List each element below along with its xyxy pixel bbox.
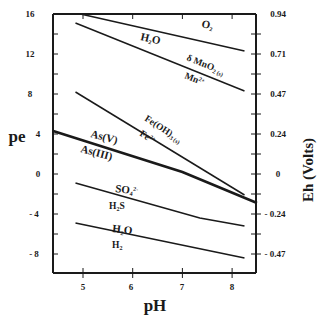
y-tick-label: 4: [36, 129, 41, 139]
x-axis-title: pH: [144, 296, 167, 315]
label-feoh3: Fe(OH)3 (s): [142, 113, 184, 146]
series-line: [81, 14, 245, 51]
y-tick-label: - 4: [29, 209, 39, 219]
eh-tick-label: 0.24: [270, 129, 286, 139]
eh-tick-label: - 0.24: [265, 209, 286, 219]
label-as-iii: As(III): [79, 142, 114, 163]
x-tick-label: 5: [81, 282, 86, 292]
series-line: [76, 183, 245, 226]
label-mn2: Mn2+: [183, 71, 206, 88]
label-h2s: H2S: [109, 201, 125, 212]
eh-tick-label: 0: [276, 169, 281, 179]
label-h2o-lower: H2O: [112, 222, 134, 237]
line-labels: O2 H2O δ MnO2 (s) Mn2+ Fe(OH)3 (s) Fe2+ …: [79, 17, 226, 251]
label-o2: O2: [200, 17, 214, 32]
x-tick-label: 7: [180, 282, 185, 292]
y-axis-right-tick-labels: 0.94 0.71 0.47 0.24 0 - 0.24 - 0.47: [265, 9, 287, 259]
y-tick-label: 12: [26, 49, 36, 59]
series-line: [76, 223, 245, 258]
x-axis-tick-labels: 5 6 7 8: [81, 282, 235, 292]
eh-tick-label: 0.71: [270, 49, 286, 59]
label-h2o-upper: H2O: [139, 30, 162, 47]
y-tick-label: - 8: [29, 249, 39, 259]
series-line: [76, 23, 245, 91]
y-right-axis-title: Eh (Volts): [300, 138, 317, 202]
eh-ph-diagram: 16 12 8 4 0 - 4 - 8 0.94 0.71 0.47 0.24 …: [0, 0, 326, 318]
x-tick-label: 6: [129, 282, 134, 292]
eh-tick-label: 0.94: [270, 9, 286, 19]
x-tick-label: 8: [230, 282, 235, 292]
y-tick-label: 0: [36, 169, 41, 179]
label-h2: H2: [112, 240, 122, 251]
y-axis-title: pe: [9, 127, 26, 146]
eh-tick-label: 0.47: [270, 89, 286, 99]
y-tick-label: 16: [26, 9, 36, 19]
y-axis-left-tick-labels: 16 12 8 4 0 - 4 - 8: [26, 9, 41, 259]
eh-tick-label: - 0.47: [265, 249, 286, 259]
series-line: [76, 92, 245, 195]
label-fe2: Fe2+: [138, 128, 158, 146]
y-tick-label: 8: [28, 89, 33, 99]
